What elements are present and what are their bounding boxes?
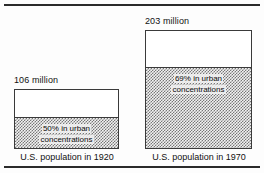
bar-caption-1970: U.S. population in 1970: [140, 152, 258, 162]
fill-label-line1-1920: 50% in urban: [42, 124, 91, 133]
bar-urban-fill-1920: 50% in urban concentrations: [15, 117, 118, 148]
fill-label-line1-1970: 69% in urban: [174, 74, 223, 83]
bar-1920: 50% in urban concentrations: [14, 89, 119, 149]
bar-urban-fill-label-1920: 50% in urban concentrations: [15, 123, 118, 145]
bottom-rule: [4, 166, 260, 168]
bar-urban-fill-1970: 69% in urban concentrations: [146, 67, 251, 148]
bar-urban-fill-label-1970: 69% in urban concentrations: [146, 73, 251, 95]
bar-caption-1920: U.S. population in 1920: [8, 152, 126, 162]
fill-label-line2-1970: concentrations: [171, 85, 225, 94]
top-rule: [4, 4, 260, 6]
fill-label-line2-1920: concentrations: [39, 135, 93, 144]
figure-urban-population: 106 million 50% in urban concentrations …: [0, 0, 264, 173]
bar-1970: 69% in urban concentrations: [145, 30, 252, 149]
